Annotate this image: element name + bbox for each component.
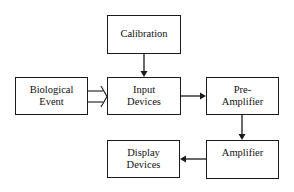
calibration-label: Calibration (120, 28, 167, 41)
biological-event-label-line1: Biological (30, 84, 74, 97)
biological-event-label-line2: Event (39, 96, 64, 109)
amplifier-block: Amplifier (206, 140, 279, 179)
input-devices-label-line1: Input (133, 84, 155, 97)
input-devices-block: Input Devices (107, 77, 181, 115)
amplifier-label: Amplifier (222, 147, 263, 160)
arrow-preamp-to-amp (239, 115, 246, 140)
display-devices-block: Display Devices (107, 140, 180, 178)
arrow-biological-to-input (88, 86, 107, 107)
calibration-block: Calibration (107, 15, 181, 54)
biological-event-block: Biological Event (15, 77, 88, 115)
pre-amplifier-block: Pre- Amplifier (206, 77, 279, 115)
arrow-calibration-to-input (141, 54, 148, 77)
display-devices-label-line1: Display (127, 147, 160, 160)
pre-amplifier-label-line2: Amplifier (222, 96, 263, 109)
display-devices-label-line2: Devices (127, 159, 161, 172)
arrow-input-to-preamp (181, 93, 206, 100)
arrow-amp-to-display (180, 156, 206, 163)
input-devices-label-line2: Devices (127, 96, 161, 109)
pre-amplifier-label-line1: Pre- (234, 84, 252, 97)
